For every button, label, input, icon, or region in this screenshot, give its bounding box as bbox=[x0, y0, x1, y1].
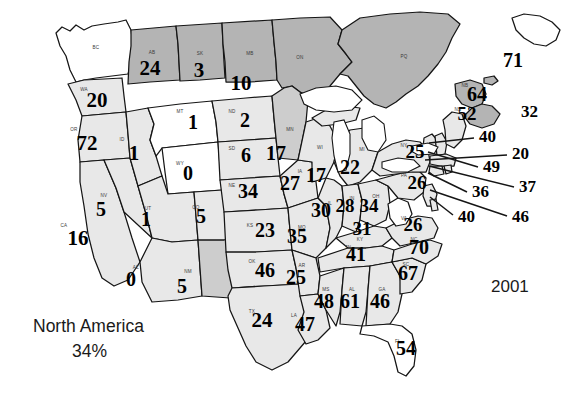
svg-text:MN: MN bbox=[286, 127, 294, 132]
value-VA: 26 bbox=[404, 214, 423, 235]
percent-caption: 34% bbox=[72, 341, 107, 362]
value-CO: 5 bbox=[196, 205, 206, 227]
callout-NH: 49 bbox=[483, 157, 500, 176]
value-MB: 10 bbox=[231, 71, 252, 95]
value-KY: 31 bbox=[353, 218, 372, 239]
value-NM: 5 bbox=[177, 275, 187, 297]
value-FL: 54 bbox=[396, 337, 416, 359]
svg-text:AB: AB bbox=[149, 50, 156, 55]
callout-ME: 32 bbox=[521, 102, 538, 121]
value-SD: 6 bbox=[241, 144, 251, 166]
value-ID: 1 bbox=[129, 141, 140, 165]
svg-text:WI: WI bbox=[317, 145, 323, 150]
svg-text:NE: NE bbox=[229, 183, 236, 188]
callout-NJ: 40 bbox=[458, 207, 475, 226]
svg-text:PQ: PQ bbox=[400, 54, 407, 59]
value-NY: 25 bbox=[406, 141, 425, 162]
callout-MA: 20 bbox=[512, 144, 529, 163]
value-NV: 5 bbox=[96, 198, 106, 220]
value-WY: 0 bbox=[183, 162, 193, 184]
value-MT: 1 bbox=[188, 111, 198, 133]
callout-VT: 40 bbox=[479, 127, 496, 146]
value-NE: 34 bbox=[238, 180, 258, 202]
svg-text:ND: ND bbox=[228, 109, 236, 114]
svg-text:SK: SK bbox=[197, 51, 204, 56]
callout-DE: 46 bbox=[512, 207, 529, 226]
value-NC: 70 bbox=[409, 236, 429, 258]
value-AZ: 0 bbox=[126, 268, 136, 290]
value-KS: 23 bbox=[255, 219, 275, 241]
svg-text:KS: KS bbox=[247, 223, 254, 228]
value-TX: 24 bbox=[252, 308, 274, 332]
callout-RI: 36 bbox=[472, 182, 489, 201]
value-GA: 46 bbox=[370, 290, 390, 312]
region-NF[interactable] bbox=[512, 14, 560, 46]
value-AL: 61 bbox=[340, 290, 360, 312]
value-ND: 2 bbox=[240, 109, 250, 131]
value-IL: 30 bbox=[311, 199, 331, 221]
map-figure: BC AB SK MB ON PQ NB NS WA OR ID MT WY N… bbox=[0, 0, 585, 394]
value-UT: 1 bbox=[141, 208, 151, 230]
svg-text:MT: MT bbox=[176, 109, 183, 114]
value-WA: 20 bbox=[87, 88, 108, 112]
svg-text:BC: BC bbox=[93, 45, 100, 50]
value-NS: 52 bbox=[458, 103, 477, 124]
value-CA: 16 bbox=[68, 226, 89, 250]
svg-text:ID: ID bbox=[120, 137, 125, 142]
value-MN: 17 bbox=[266, 142, 286, 164]
value-LA: 47 bbox=[295, 313, 315, 335]
value-MO: 35 bbox=[287, 225, 307, 247]
region-AZ[interactable] bbox=[140, 238, 202, 302]
svg-text:NM: NM bbox=[184, 269, 192, 274]
value-IN: 28 bbox=[336, 195, 355, 216]
value-MS: 48 bbox=[314, 290, 334, 312]
value-IA: 27 bbox=[280, 172, 300, 194]
svg-text:ON: ON bbox=[296, 55, 303, 60]
callout-CT: 37 bbox=[519, 177, 537, 196]
svg-text:MB: MB bbox=[246, 51, 253, 56]
region-caption: North America bbox=[33, 316, 144, 337]
year-caption: 2001 bbox=[491, 277, 529, 297]
value-PA: 26 bbox=[408, 172, 427, 193]
value-SC: 67 bbox=[398, 262, 418, 284]
value-AR: 25 bbox=[286, 266, 306, 288]
value-TN: 41 bbox=[346, 243, 366, 265]
value-MI: 22 bbox=[340, 156, 360, 178]
value-NF: 71 bbox=[503, 49, 523, 71]
value-OR: 72 bbox=[77, 131, 98, 155]
value-NB: 64 bbox=[467, 83, 487, 105]
svg-text:SD: SD bbox=[229, 146, 236, 151]
value-SK: 3 bbox=[194, 58, 205, 82]
value-AB: 24 bbox=[140, 56, 162, 80]
svg-text:MI: MI bbox=[359, 147, 365, 152]
value-OK: 46 bbox=[255, 259, 275, 281]
region-ON[interactable] bbox=[272, 17, 352, 96]
value-WI: 17 bbox=[306, 164, 326, 186]
value-OH: 34 bbox=[360, 195, 380, 216]
region-BC[interactable] bbox=[56, 20, 133, 82]
